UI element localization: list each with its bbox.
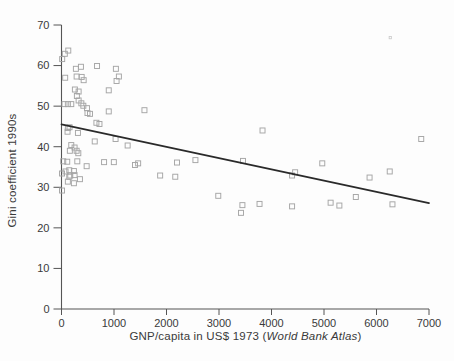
y-tick-label: 10 xyxy=(37,262,49,274)
data-point xyxy=(260,128,265,133)
figure-canvas: 0102030405060700100020003000400050006000… xyxy=(0,0,454,361)
x-tick-label: 2000 xyxy=(154,317,178,329)
data-point xyxy=(95,63,100,68)
data-point xyxy=(193,158,198,163)
data-point xyxy=(81,78,86,83)
data-point xyxy=(111,160,116,165)
data-point xyxy=(71,181,76,186)
x-tick-label: 1000 xyxy=(102,317,126,329)
x-axis-title: GNP/capita in US$ 1973 (World Bank Atlas… xyxy=(62,330,429,342)
data-point xyxy=(337,203,342,208)
x-axis-title-text: GNP/capita in US$ 1973 ( xyxy=(129,330,266,342)
data-point xyxy=(387,169,392,174)
y-tick-label: 30 xyxy=(37,181,49,193)
data-point xyxy=(74,74,79,79)
data-point xyxy=(257,201,262,206)
data-point xyxy=(69,102,74,107)
x-axis-title-italic: World Bank Atlas xyxy=(267,330,358,342)
data-point xyxy=(65,102,70,107)
data-point xyxy=(353,195,358,200)
y-tick-label: 40 xyxy=(37,141,49,153)
data-point xyxy=(62,51,67,56)
data-point xyxy=(367,175,372,180)
y-tick-label: 60 xyxy=(37,59,49,71)
y-tick-label: 50 xyxy=(37,100,49,112)
y-tick-label: 20 xyxy=(37,222,49,234)
data-point xyxy=(73,66,78,71)
data-point xyxy=(142,108,147,113)
data-point xyxy=(240,203,245,208)
data-point xyxy=(136,161,141,166)
x-tick-label: 5000 xyxy=(312,317,336,329)
data-point xyxy=(66,48,71,53)
data-point xyxy=(133,162,138,167)
x-axis-title-suffix: ) xyxy=(358,330,362,342)
data-point xyxy=(65,179,70,184)
data-point xyxy=(102,160,107,165)
x-tick-label: 3000 xyxy=(207,317,231,329)
stray-mark xyxy=(389,37,391,39)
x-tick-label: 4000 xyxy=(259,317,283,329)
data-point xyxy=(175,160,180,165)
data-point xyxy=(62,102,67,107)
data-point xyxy=(328,200,333,205)
data-point xyxy=(63,75,68,80)
data-point xyxy=(79,74,84,79)
data-point xyxy=(75,130,80,135)
y-tick-label: 70 xyxy=(37,19,49,31)
data-point xyxy=(77,177,82,182)
x-tick-label: 0 xyxy=(58,317,64,329)
data-point xyxy=(216,193,221,198)
data-point xyxy=(113,66,118,71)
data-point xyxy=(419,137,424,142)
y-tick-label: 0 xyxy=(43,303,49,315)
y-axis-title: Gini coefficient 1990s xyxy=(6,71,21,271)
scatter-plot: 0102030405060700100020003000400050006000… xyxy=(0,0,454,361)
data-point xyxy=(106,109,111,114)
data-point xyxy=(320,161,325,166)
x-tick-label: 6000 xyxy=(364,317,388,329)
data-point xyxy=(113,137,118,142)
data-point xyxy=(390,202,395,207)
x-tick-label: 7000 xyxy=(417,317,441,329)
data-point xyxy=(78,64,83,69)
data-point xyxy=(238,210,243,215)
data-point xyxy=(125,143,130,148)
data-point xyxy=(173,174,178,179)
data-point xyxy=(84,164,89,169)
data-point xyxy=(75,159,80,164)
data-point xyxy=(106,88,111,93)
data-point xyxy=(290,204,295,209)
data-point xyxy=(60,57,65,62)
data-point xyxy=(158,173,163,178)
data-point xyxy=(92,139,97,144)
